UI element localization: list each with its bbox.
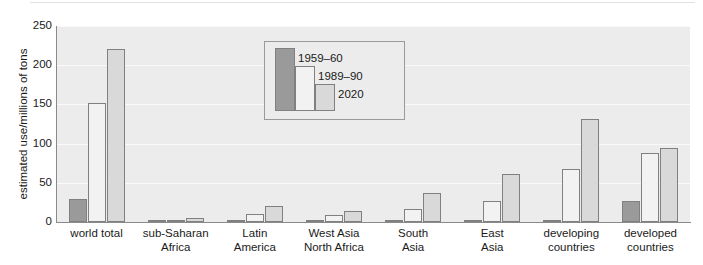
y-tick-150: 150	[8, 98, 52, 109]
top-divider	[30, 2, 695, 3]
y-axis-line	[56, 26, 57, 223]
legend-label: 1959–60	[298, 52, 343, 64]
legend-label: 2020	[338, 88, 364, 100]
bar-group	[622, 26, 678, 222]
bar	[581, 119, 599, 222]
bar	[246, 214, 264, 222]
chart-legend: 1959–601989–902020	[264, 41, 405, 120]
x-tick-line: countries	[590, 241, 703, 255]
bar	[404, 209, 422, 222]
bar	[69, 199, 87, 222]
legend-label: 1989–90	[318, 70, 363, 82]
bar	[641, 153, 659, 222]
y-tick-0: 0	[8, 216, 52, 227]
bar	[562, 169, 580, 222]
bar	[88, 103, 106, 222]
bar	[483, 201, 501, 222]
bar	[265, 206, 283, 222]
bar-group	[464, 26, 520, 222]
x-axis-line	[56, 222, 691, 223]
bar-chart-figure: estimated use/millions of tons 250200150…	[0, 0, 703, 265]
bar	[502, 174, 520, 222]
legend-swatch	[315, 84, 335, 111]
y-tick-250: 250	[8, 20, 52, 31]
y-tick-200: 200	[8, 59, 52, 70]
bar-group	[69, 26, 125, 222]
x-tick-line: developed	[590, 227, 703, 241]
legend-swatch	[295, 66, 315, 111]
y-tick-50: 50	[8, 177, 52, 188]
bar	[107, 49, 125, 222]
y-axis-tick-labels: 250200150100500	[0, 0, 52, 265]
bar-group	[148, 26, 204, 222]
bar	[622, 201, 640, 222]
bar-group	[543, 26, 599, 222]
legend-swatch	[275, 48, 295, 111]
bar	[423, 193, 441, 222]
x-tick-label: developedcountries	[590, 227, 703, 254]
y-tick-100: 100	[8, 138, 52, 149]
bar	[660, 148, 678, 222]
bar	[344, 211, 362, 222]
bar	[325, 215, 343, 222]
